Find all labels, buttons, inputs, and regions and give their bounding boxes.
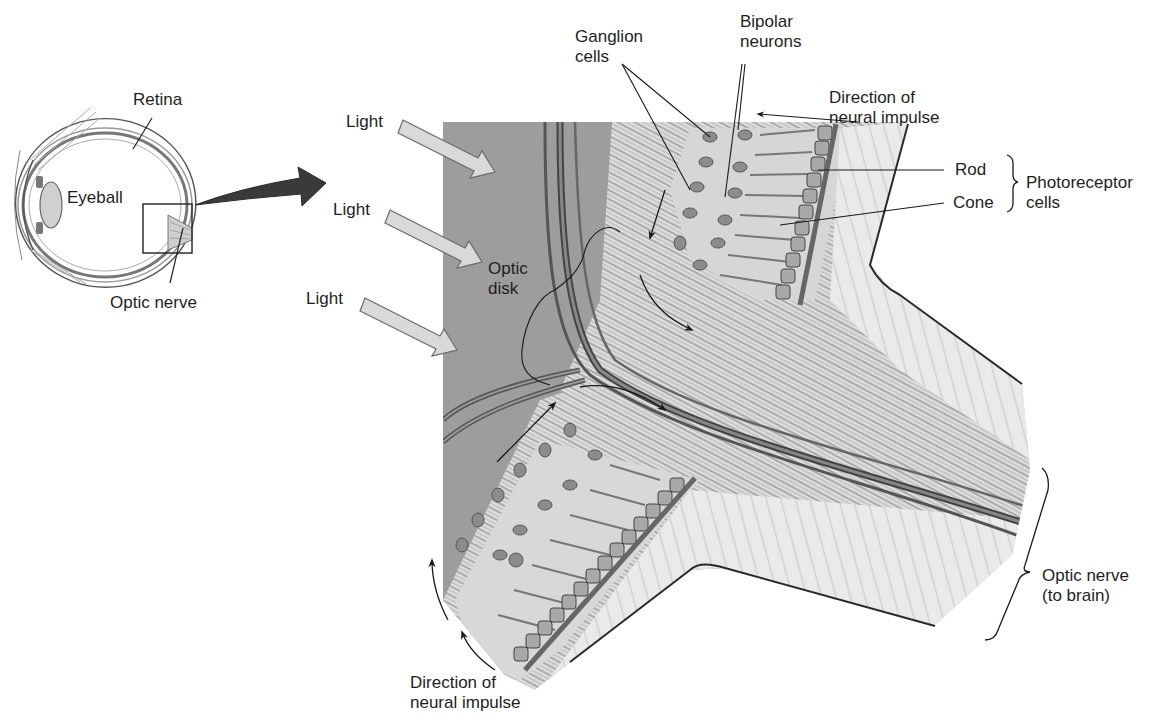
direction-bottom-label: Direction of neural impulse [410,673,521,713]
cone-label: Cone [953,193,994,213]
optic-disk-label: Optic disk [488,259,528,299]
photoreceptor-cells-label: Photoreceptor cells [1026,173,1133,213]
bipolar-neurons-label: Bipolar neurons [740,12,801,52]
retina-diagram: Retina Eyeball Optic nerve Light Light L… [0,0,1166,728]
inset-optic-nerve-label: Optic nerve [110,293,197,313]
rod-label: Rod [955,160,986,180]
ganglion-cells-label: Ganglion cells [575,27,643,67]
optic-nerve-brain-label: Optic nerve (to brain) [1042,566,1129,606]
direction-top-label: Direction of neural impulse [829,88,940,128]
zoom-arrow-icon [195,167,326,206]
retina-cross-section [440,120,1030,690]
light-label-1: Light [346,112,383,132]
eyeball-label: Eyeball [67,188,123,208]
light-arrow-icon [360,298,457,356]
retina-label: Retina [133,90,182,110]
light-label-3: Light [306,289,343,309]
light-label-2: Light [333,200,370,220]
photoreceptor-brace [1007,155,1018,212]
